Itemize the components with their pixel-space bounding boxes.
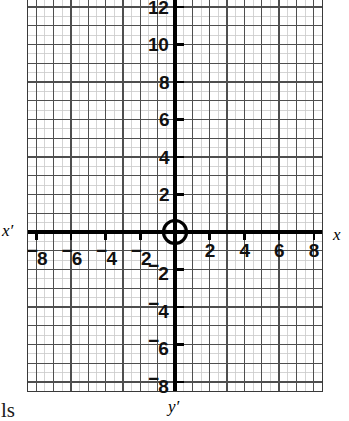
tick-digits: 10: [148, 34, 169, 55]
y-axis-tick-label: 10: [148, 35, 169, 54]
tick-digits: 2: [159, 184, 169, 205]
raised-minus-sign: −: [131, 241, 142, 260]
tick-digits: 8: [158, 375, 168, 396]
y-axis-tick-label: −4: [148, 294, 169, 321]
tick-digits: 2: [158, 263, 168, 284]
x-axis-tick-label: −6: [61, 241, 82, 268]
y-axis-tick-label: 6: [159, 110, 169, 129]
tick-digits: 4: [106, 248, 116, 269]
y-axis-tick-label: 8: [159, 73, 169, 92]
x-axis-tick-label: 4: [239, 241, 249, 260]
tick-digits: 8: [37, 248, 47, 269]
tick-digits: 6: [158, 338, 168, 359]
y-axis-tick-label: −2: [148, 256, 169, 283]
raised-minus-sign: −: [61, 241, 72, 260]
axis-label-x-prime: x′: [2, 222, 13, 239]
tick-digits: 6: [274, 240, 284, 261]
tick-digits: 2: [205, 240, 215, 261]
raised-minus-sign: −: [27, 241, 38, 260]
tick-digits: 6: [72, 248, 82, 269]
y-axis-tick-label: 12: [148, 0, 169, 17]
tick-digits: 4: [159, 147, 169, 168]
x-axis-tick-label: 6: [274, 241, 284, 260]
x-axis-tick-label: −8: [27, 241, 48, 268]
x-axis-tick-label: 2: [205, 241, 215, 260]
x-axis-tick-label: 8: [309, 241, 319, 260]
coordinate-grid-figure: −8−6−4−2246812108642−2−4−6−8 x′ x y′ ls: [0, 0, 349, 421]
y-axis-tick-label: 4: [159, 148, 169, 167]
tick-digits: 8: [309, 240, 319, 261]
x-axis-tick-label: −4: [96, 241, 117, 268]
tick-digits: 12: [148, 0, 169, 18]
tick-digits: 4: [158, 300, 168, 321]
coordinate-plane: [0, 0, 349, 421]
axis-label-x: x: [333, 226, 341, 243]
axis-label-y-prime: y′: [168, 398, 179, 415]
y-axis-tick-label: 2: [159, 185, 169, 204]
page-text-fragment: ls: [1, 400, 15, 421]
tick-digits: 8: [159, 72, 169, 93]
tick-digits: 6: [159, 109, 169, 130]
tick-digits: 4: [239, 240, 249, 261]
y-axis-tick-label: −6: [148, 331, 169, 358]
y-axis-tick-label: −8: [148, 369, 169, 396]
